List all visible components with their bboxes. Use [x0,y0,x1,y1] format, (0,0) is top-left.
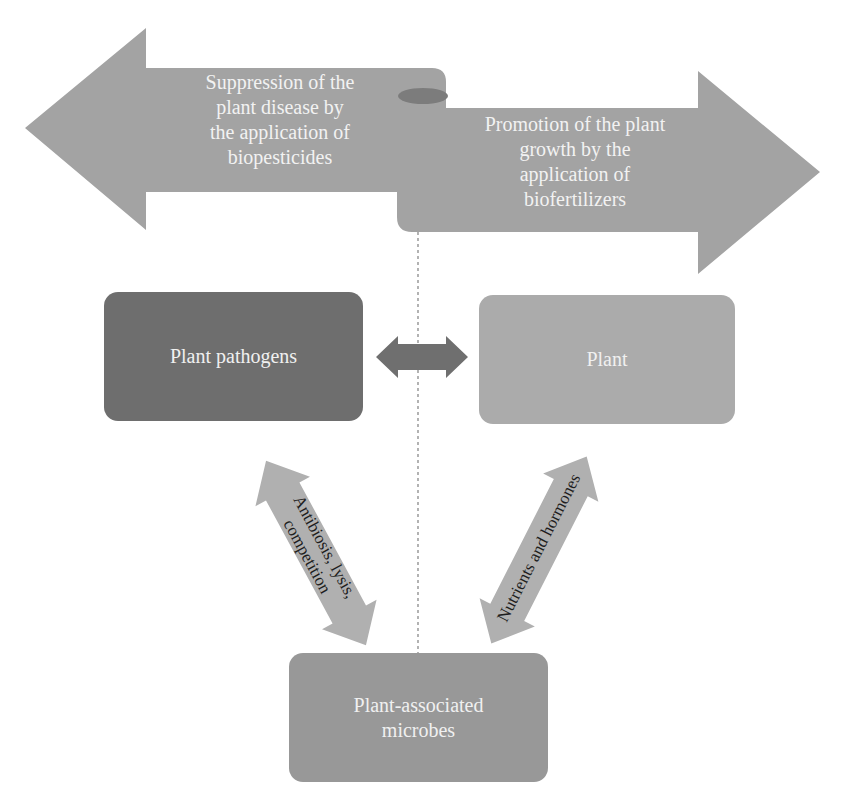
plant-associated-microbes-box: Plant-associated microbes [289,653,548,782]
left-arrow-label: Suppression of the plant disease by the … [160,70,400,170]
plant-pathogens-label: Plant pathogens [170,344,297,369]
plant-box: Plant [479,295,735,424]
right-arrow-label: Promotion of the plant growth by the app… [455,112,695,212]
microbes-label: Plant-associated microbes [354,693,484,743]
ribbon-fold [398,88,448,104]
plant-pathogens-box: Plant pathogens [104,292,363,421]
plant-label: Plant [586,347,627,372]
pathogens-plant-double-arrow [376,336,468,378]
diagram-canvas: Suppression of the plant disease by the … [0,0,843,804]
